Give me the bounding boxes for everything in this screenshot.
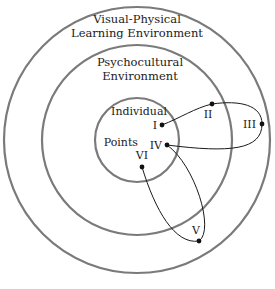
point-label-V: V <box>191 224 201 237</box>
point-label-III: III <box>243 118 256 131</box>
outer-ring-label-line2: Learning Environment <box>71 26 203 40</box>
environment-diagram: Visual-Physical Learning Environment Psy… <box>0 0 275 289</box>
middle-ring-label-line2: Environment <box>102 69 178 83</box>
point-label-II: II <box>204 108 213 121</box>
point-II <box>210 102 215 107</box>
point-I <box>160 123 165 128</box>
inner-ring-label-line2: Points <box>104 136 139 149</box>
point-III <box>260 122 265 127</box>
point-label-I: I <box>153 119 157 132</box>
point-label-VI: VI <box>135 149 148 162</box>
path-V-VI <box>142 167 199 241</box>
middle-ring-label-line1: Psychocultural <box>97 55 184 69</box>
inner-ring-label-line1: Individual <box>111 105 167 118</box>
point-IV <box>165 143 170 148</box>
point-VI <box>140 165 145 170</box>
point-V <box>197 239 202 244</box>
point-label-IV: IV <box>150 139 163 152</box>
outer-ring-label-line1: Visual-Physical <box>92 12 181 26</box>
